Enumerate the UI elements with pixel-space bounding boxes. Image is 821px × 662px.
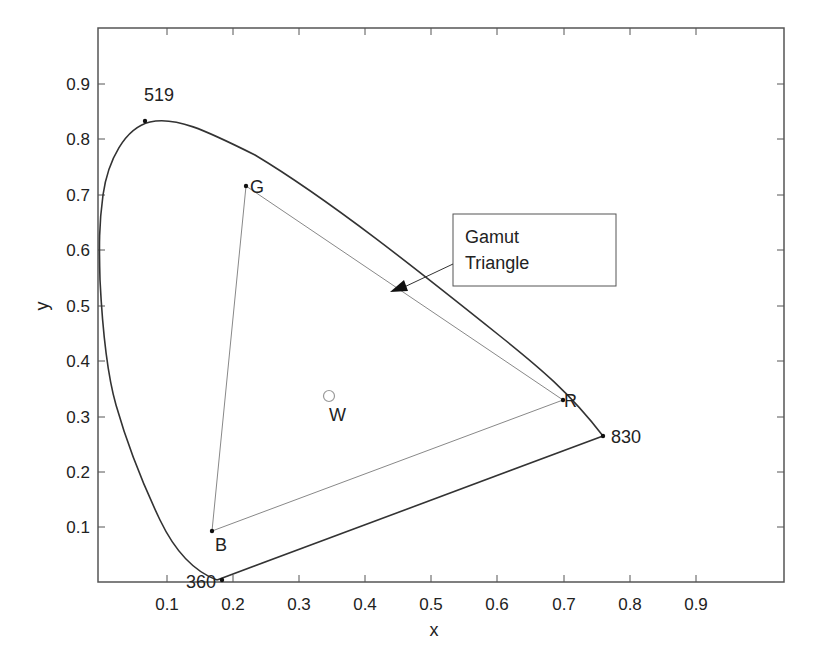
marker-g xyxy=(244,184,248,188)
label-830: 830 xyxy=(611,427,641,447)
y-tick-label: 0.1 xyxy=(66,518,90,537)
x-tick-label: 0.7 xyxy=(552,595,576,614)
x-tick-label: 0.4 xyxy=(353,595,377,614)
y-tick-label: 0.9 xyxy=(66,75,90,94)
label-b: B xyxy=(215,535,227,555)
x-tick-label: 0.5 xyxy=(419,595,443,614)
callout-box xyxy=(453,214,616,286)
y-tick-label: 0.5 xyxy=(66,297,90,316)
y-tick-label: 0.2 xyxy=(66,463,90,482)
chromaticity-chart: 0.1 0.2 0.3 0.4 0.5 0.6 0.7 0.8 0.9 0.1 … xyxy=(0,0,821,662)
label-519: 519 xyxy=(144,85,174,105)
marker-830 xyxy=(601,434,605,438)
marker-b xyxy=(210,529,214,533)
x-tick-label: 0.8 xyxy=(618,595,642,614)
plot-frame xyxy=(98,28,784,582)
marker-519 xyxy=(143,119,147,123)
callout-arrowhead-icon xyxy=(390,280,408,292)
label-360: 360 xyxy=(186,572,216,592)
marker-360 xyxy=(220,578,224,582)
y-tick-label: 0.4 xyxy=(66,352,90,371)
callout-line-1: Gamut xyxy=(465,227,519,247)
label-g: G xyxy=(250,177,264,197)
white-point-marker xyxy=(324,391,335,402)
callout-line-2: Triangle xyxy=(465,253,529,273)
y-tick-label: 0.6 xyxy=(66,241,90,260)
x-tick-labels: 0.1 0.2 0.3 0.4 0.5 0.6 0.7 0.8 0.9 xyxy=(155,595,708,614)
callout-arrow-line xyxy=(400,264,453,289)
y-axis-label: y xyxy=(32,302,52,311)
x-tick-label: 0.9 xyxy=(684,595,708,614)
y-tick-labels: 0.1 0.2 0.3 0.4 0.5 0.6 0.7 0.8 0.9 xyxy=(66,75,90,537)
y-tick-label: 0.3 xyxy=(66,408,90,427)
x-tick-label: 0.6 xyxy=(485,595,509,614)
y-tick-label: 0.8 xyxy=(66,130,90,149)
label-r: R xyxy=(564,391,577,411)
y-ticks xyxy=(98,84,784,527)
x-tick-label: 0.1 xyxy=(155,595,179,614)
x-axis-label: x xyxy=(430,620,439,640)
x-tick-label: 0.2 xyxy=(221,595,245,614)
x-tick-label: 0.3 xyxy=(287,595,311,614)
spectral-locus-curve xyxy=(99,121,603,580)
y-tick-label: 0.7 xyxy=(66,186,90,205)
x-ticks xyxy=(167,28,696,582)
label-w: W xyxy=(329,405,346,425)
